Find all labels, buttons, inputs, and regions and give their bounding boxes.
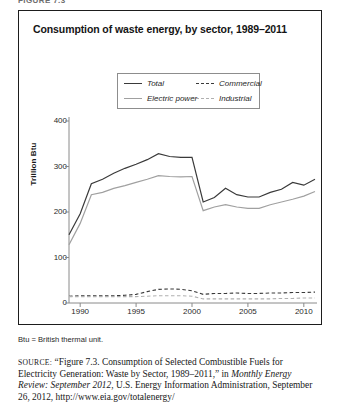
- figure-label: FIGURE 7.3: [18, 0, 66, 5]
- chart-legend: Total Electric power Commercial Industri…: [117, 73, 260, 109]
- legend-label-total: Total: [147, 79, 164, 88]
- series-line-total: [69, 154, 315, 235]
- legend-label-electric-power: Electric power: [147, 94, 197, 103]
- source-note: SOURCE: “Figure 7.3. Consumption of Sele…: [18, 357, 322, 403]
- legend-item-total: Total: [124, 77, 164, 90]
- chart-series-svg: [19, 111, 323, 323]
- legend-label-industrial: Industrial: [219, 94, 251, 103]
- legend-item-commercial: Commercial: [196, 77, 262, 90]
- legend-line-industrial-icon: [196, 98, 214, 99]
- chart-title: Consumption of waste energy, by sector, …: [33, 23, 287, 35]
- series-line-electric-power: [69, 176, 315, 245]
- source-prefix: SOURCE:: [18, 358, 52, 367]
- legend-item-industrial: Industrial: [196, 92, 251, 105]
- legend-item-electric-power: Electric power: [124, 92, 197, 105]
- footnote-btu: Btu = British thermal unit.: [18, 335, 103, 344]
- legend-label-commercial: Commercial: [219, 79, 262, 88]
- series-line-industrial: [69, 296, 315, 299]
- legend-line-total-icon: [124, 83, 142, 84]
- legend-line-commercial-icon: [196, 83, 214, 84]
- legend-line-electric-power-icon: [124, 98, 142, 99]
- series-line-commercial: [69, 289, 315, 296]
- figure-box: Consumption of waste energy, by sector, …: [18, 10, 322, 325]
- chart-plot-area: Trillion Btu 0100200300400 1990199520002…: [19, 111, 323, 323]
